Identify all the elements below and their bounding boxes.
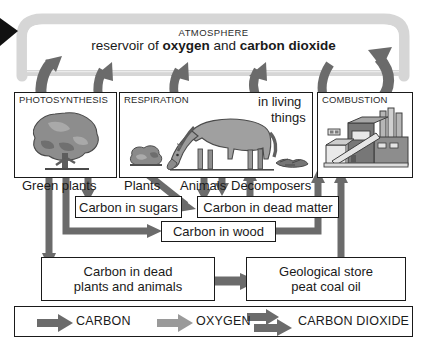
store-carbon-in-dead-matter-label: Carbon in dead matter [203,200,332,215]
legend-arrow-carbon-icon [37,314,73,332]
atmosphere-text-prefix: reservoir of [91,38,162,53]
factory-illustration-icon [318,93,414,179]
tree-illustration-icon [15,93,118,179]
panel-combustion: COMBUSTION [317,92,413,178]
caption-plants: Plants [124,178,160,193]
store-carbon-in-wood-label: Carbon in wood [173,224,264,239]
panel-photosynthesis: PHOTOSYNTHESIS [14,92,117,178]
store-dead-plants-line2: plants and animals [74,279,182,294]
atmosphere-text-oxygen: oxygen [162,38,209,53]
atmosphere-heading: ATMOSPHERE [0,28,427,38]
legend-label-oxygen: OXYGEN [196,314,251,328]
geological-store-line1: Geological store [279,264,373,279]
atmosphere-text-carbon-dioxide: carbon dioxide [240,38,336,53]
caption-animals: Animals [180,178,226,193]
store-carbon-in-dead-matter: Carbon in dead matter [197,196,339,218]
store-carbon-in-sugars-label: Carbon in sugars [79,200,178,215]
caption-decomposers: Decomposers [231,178,311,193]
legend-arrow-carbon-dioxide-icon [247,309,292,336]
legend: CARBON OXYGEN CARBON DIOXIDE [14,306,413,337]
store-geological-store: Geological store peat coal oil [246,257,406,301]
atmosphere-text-middle: and [210,38,240,53]
store-carbon-in-wood: Carbon in wood [161,221,276,242]
store-carbon-in-dead-plants-and-animals: Carbon in dead plants and animals [41,257,215,301]
store-dead-plants-line1: Carbon in dead [84,264,173,279]
legend-label-carbon: CARBON [76,314,131,328]
geological-store-line2: peat coal oil [291,279,360,294]
caption-green-plants: Green plants [22,178,96,193]
store-carbon-in-sugars: Carbon in sugars [75,196,182,218]
label-in-living-things-line2: things [271,111,306,125]
atmosphere-reservoir-line: reservoir of oxygen and carbon dioxide [0,39,427,53]
label-in-living-things-line1: in living [258,95,301,109]
legend-label-carbon-dioxide: CARBON DIOXIDE [298,314,409,328]
carbon-cycle-diagram: ATMOSPHERE reservoir of oxygen and carbo… [0,0,427,345]
legend-arrow-oxygen-icon [157,314,193,332]
